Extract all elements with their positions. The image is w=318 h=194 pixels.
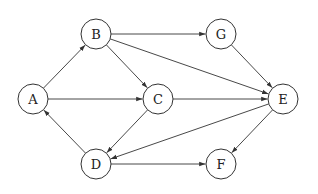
- edge-e-to-d: [111, 104, 269, 159]
- node-g: G: [206, 19, 236, 49]
- node-label: C: [153, 92, 163, 107]
- node-f: F: [206, 149, 236, 179]
- edge-g-to-e: [231, 45, 272, 88]
- node-c: C: [143, 84, 173, 114]
- node-label: G: [216, 27, 226, 42]
- edge-d-to-a: [44, 110, 86, 153]
- node-label: B: [91, 27, 101, 42]
- edge-e-to-f: [232, 110, 273, 153]
- node-label: A: [27, 92, 38, 107]
- edge-b-to-c: [106, 45, 147, 88]
- node-label: E: [278, 92, 288, 107]
- node-label: F: [216, 157, 225, 172]
- edge-a-to-b: [43, 45, 85, 88]
- node-b: B: [81, 19, 111, 49]
- node-a: A: [18, 84, 48, 114]
- node-d: D: [81, 149, 111, 179]
- node-e: E: [268, 84, 298, 114]
- edge-c-to-d: [107, 110, 148, 153]
- node-label: D: [91, 157, 101, 172]
- directed-graph: ABCDGEF: [0, 0, 318, 194]
- edge-b-to-e: [110, 39, 268, 94]
